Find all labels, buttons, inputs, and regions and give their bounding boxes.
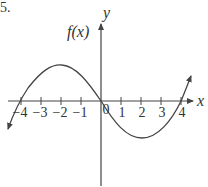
function-label: f(x) bbox=[67, 24, 89, 40]
x-tick-label: 3 bbox=[159, 106, 166, 120]
x-tick-label: 0 bbox=[103, 103, 110, 117]
function-graph bbox=[0, 0, 208, 187]
x-tick-label: −2 bbox=[53, 106, 68, 120]
x-tick-label: 4 bbox=[179, 106, 186, 120]
x-axis-label: x bbox=[197, 93, 204, 109]
y-axis-label: y bbox=[103, 5, 110, 21]
x-tick-label: −1 bbox=[73, 106, 88, 120]
x-tick-label: 2 bbox=[139, 106, 146, 120]
curve-right-end bbox=[181, 76, 191, 101]
x-tick-label: 1 bbox=[119, 106, 126, 120]
x-tick-label: −3 bbox=[33, 106, 48, 120]
problem-number: 5. bbox=[0, 1, 11, 15]
x-tick-label: −4 bbox=[13, 106, 28, 120]
